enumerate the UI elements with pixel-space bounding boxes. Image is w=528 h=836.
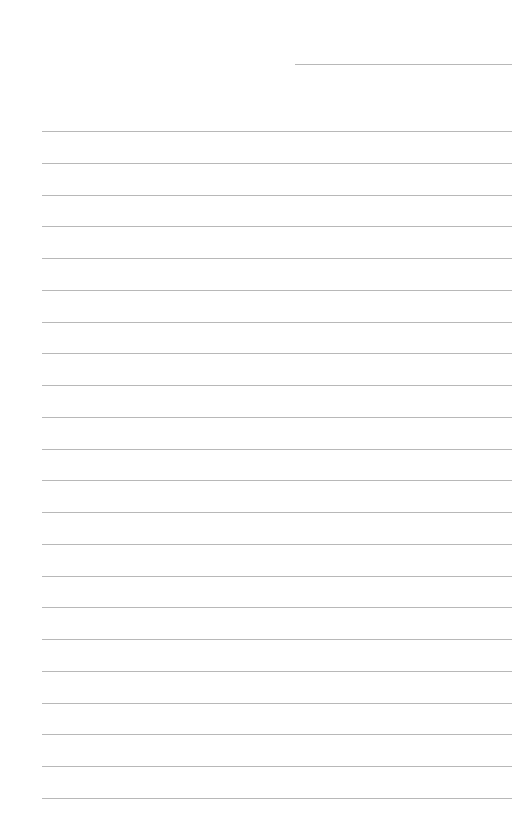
ruled-line xyxy=(42,576,512,577)
ruled-line xyxy=(42,766,512,767)
ruled-line xyxy=(42,195,512,196)
ruled-line xyxy=(42,703,512,704)
ruled-line xyxy=(42,480,512,481)
ruled-line xyxy=(42,734,512,735)
ruled-line xyxy=(42,417,512,418)
ruled-line xyxy=(42,226,512,227)
ruled-line xyxy=(42,639,512,640)
ruled-line xyxy=(42,290,512,291)
ruled-line xyxy=(42,544,512,545)
ruled-line xyxy=(42,512,512,513)
ruled-line xyxy=(42,671,512,672)
ruled-line xyxy=(42,131,512,132)
lined-page xyxy=(0,0,528,836)
ruled-line xyxy=(42,607,512,608)
ruled-line xyxy=(42,163,512,164)
ruled-line xyxy=(42,385,512,386)
header-date-line xyxy=(295,64,512,65)
ruled-line xyxy=(42,322,512,323)
ruled-line xyxy=(42,798,512,799)
ruled-line xyxy=(42,353,512,354)
ruled-line xyxy=(42,258,512,259)
ruled-line xyxy=(42,449,512,450)
